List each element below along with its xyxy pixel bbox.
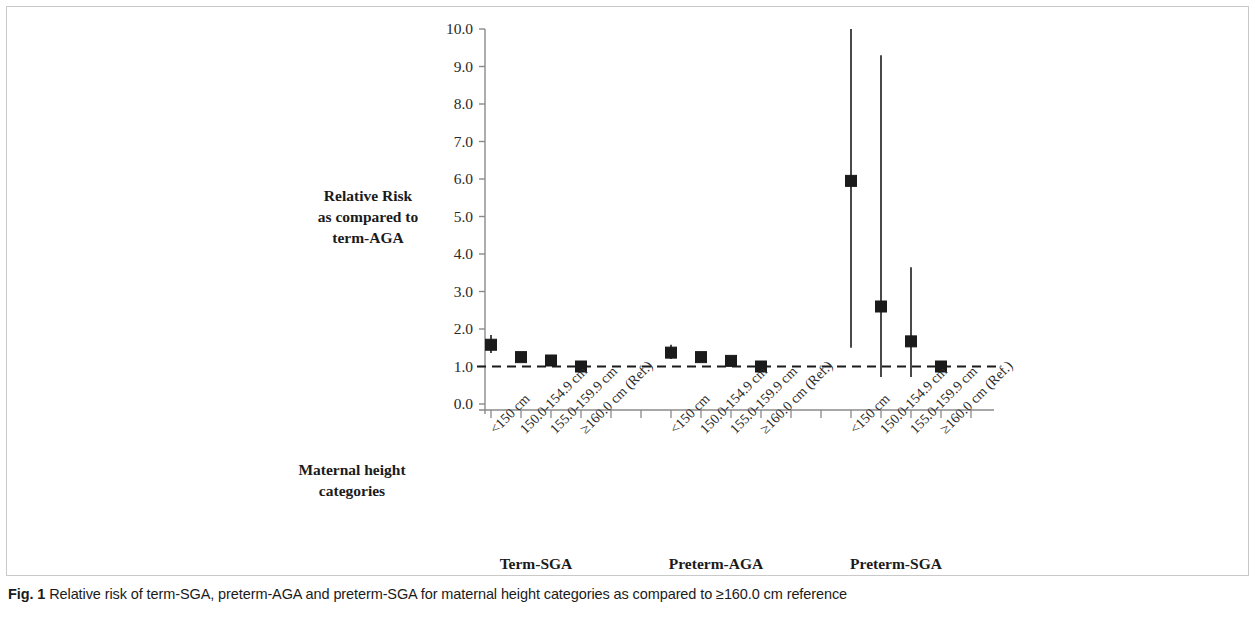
x-axis-title: Maternal height categories bbox=[257, 459, 447, 501]
group-label: Preterm-SGA bbox=[816, 555, 976, 573]
data-series-group bbox=[486, 29, 947, 377]
y-tick-label: 4.0 bbox=[427, 245, 473, 263]
figure-caption-label: Fig. 1 bbox=[8, 586, 45, 602]
y-axis-title-line-1: Relative Risk bbox=[293, 185, 443, 206]
data-point-marker bbox=[546, 355, 557, 366]
data-point-marker bbox=[666, 347, 677, 358]
y-tick-label: 2.0 bbox=[427, 320, 473, 338]
y-tick-label: 1.0 bbox=[427, 358, 473, 376]
y-tick-label: 9.0 bbox=[427, 58, 473, 76]
data-point-marker bbox=[696, 352, 707, 363]
y-axis-title: Relative Risk as compared to term-AGA bbox=[293, 185, 443, 248]
data-point-marker bbox=[726, 355, 737, 366]
group-label: Term-SGA bbox=[456, 555, 616, 573]
data-point-marker bbox=[486, 339, 497, 350]
x-axis-title-line-2: categories bbox=[257, 480, 447, 501]
y-tick-label: 6.0 bbox=[427, 170, 473, 188]
figure-caption-text: Relative risk of term-SGA, preterm-AGA a… bbox=[49, 586, 847, 602]
y-tick-label: 3.0 bbox=[427, 283, 473, 301]
data-point-marker bbox=[906, 336, 917, 347]
figure-panel: Relative Risk as compared to term-AGA Ma… bbox=[6, 6, 1249, 576]
figure-caption: Fig. 1 Relative risk of term-SGA, preter… bbox=[8, 586, 1248, 602]
data-point-marker bbox=[516, 352, 527, 363]
y-tick-label: 0.0 bbox=[427, 395, 473, 413]
y-tick-label: 10.0 bbox=[427, 20, 473, 38]
y-tick-label: 7.0 bbox=[427, 133, 473, 151]
x-axis-title-line-1: Maternal height bbox=[257, 459, 447, 480]
y-tick-label: 8.0 bbox=[427, 95, 473, 113]
y-axis-title-line-2: as compared to bbox=[293, 206, 443, 227]
group-label: Preterm-AGA bbox=[636, 555, 796, 573]
relative-risk-forest-chart bbox=[7, 7, 1250, 577]
y-tick-label: 5.0 bbox=[427, 208, 473, 226]
data-point-marker bbox=[876, 301, 887, 312]
data-point-marker bbox=[846, 175, 857, 186]
y-axis-title-line-3: term-AGA bbox=[293, 227, 443, 248]
